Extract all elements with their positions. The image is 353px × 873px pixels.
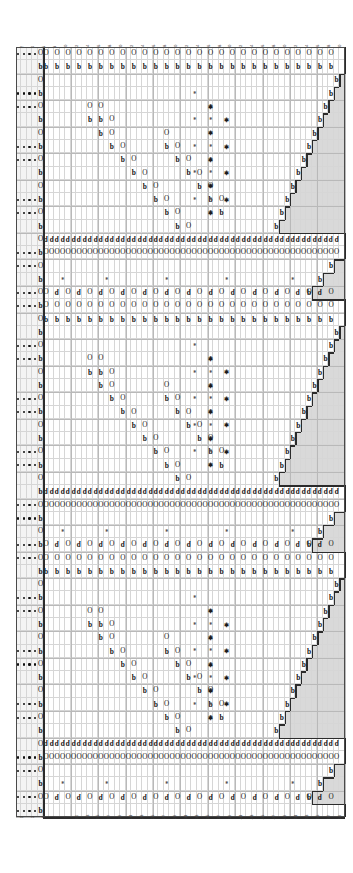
- column-label: 31: [183, 811, 188, 823]
- column-label: 11: [74, 811, 79, 823]
- column-label: 33: [194, 811, 199, 823]
- lace-chart-page: 2468101214161820222426283032343638404244…: [0, 0, 353, 873]
- column-label: 49: [282, 811, 287, 823]
- column-label: 23: [139, 811, 144, 823]
- column-label: 25: [150, 811, 155, 823]
- column-label: 57: [326, 811, 331, 823]
- chart-outline: [345, 313, 346, 326]
- column-label: 19: [117, 811, 122, 823]
- column-headers-bottom: 1357911131517192123252729313335373941434…: [16, 817, 345, 834]
- chart-outline: [345, 246, 346, 259]
- column-label: 27: [161, 811, 166, 823]
- column-label: 5: [41, 811, 46, 823]
- column-label: 17: [106, 811, 111, 823]
- column-label: 53: [304, 811, 309, 823]
- column-label: 9: [63, 811, 68, 823]
- column-label: 21: [128, 811, 133, 823]
- column-label: 35: [205, 811, 210, 823]
- column-label: 45: [260, 811, 265, 823]
- column-label: 13: [85, 811, 90, 823]
- grid-major-line: [345, 47, 346, 817]
- chart-outline: [345, 47, 346, 60]
- chart-frame: [16, 47, 345, 817]
- chart-outline: [345, 60, 346, 73]
- column-label: 39: [227, 811, 232, 823]
- knitting-chart: 2468101214161820222426283032343638404244…: [16, 30, 345, 834]
- column-label: 1: [19, 811, 24, 823]
- chart-outline: [345, 751, 346, 764]
- column-label: 3: [30, 811, 35, 823]
- chart-outline: [345, 499, 346, 512]
- column-label: 55: [315, 811, 320, 823]
- chart-outline: [345, 233, 346, 246]
- column-label: 43: [249, 811, 254, 823]
- chart-outline: [345, 552, 346, 565]
- column-label: 7: [52, 811, 57, 823]
- column-headers-top: 2468101214161820222426283032343638404244…: [16, 30, 345, 47]
- column-label: 47: [271, 811, 276, 823]
- chart-outline: [345, 485, 346, 498]
- chart-outline: [345, 299, 346, 312]
- column-label: 15: [95, 811, 100, 823]
- column-label: 59: [337, 811, 342, 823]
- column-label: 51: [293, 811, 298, 823]
- chart-outline: [345, 738, 346, 751]
- column-label: 29: [172, 811, 177, 823]
- column-label: 41: [238, 811, 243, 823]
- chart-grid: ObObObObObObObObObObObObObObObObObObObOb…: [16, 47, 345, 817]
- chart-outline: [345, 804, 346, 817]
- column-label: 37: [216, 811, 221, 823]
- chart-outline: [345, 565, 346, 578]
